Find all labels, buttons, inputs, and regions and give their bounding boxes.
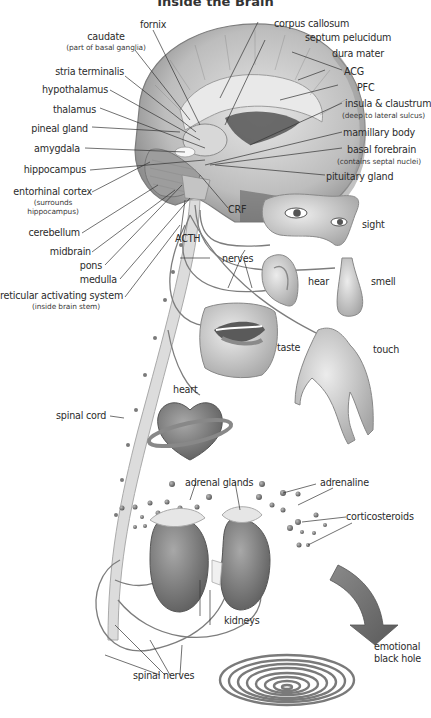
label-emotional-black-hole-line2: black hole	[374, 653, 421, 664]
label-pineal-gland: pineal gland	[0, 123, 88, 134]
label-basal-forebrain: basal forebrain	[347, 144, 416, 155]
label-hypothalamus: hypothalamus	[0, 84, 108, 95]
eyes-illustration	[262, 194, 358, 245]
label-entorhinal-note-1: (surrounds	[20, 198, 86, 207]
label-smell: smell	[371, 276, 396, 287]
label-stria-terminalis: stria terminalis	[0, 66, 124, 77]
label-septum-pelucidum: septum pelucidum	[305, 32, 391, 43]
label-midbrain: midbrain	[0, 246, 91, 257]
label-spinal-cord: spinal cord	[56, 410, 106, 421]
label-crf: CRF	[228, 204, 246, 215]
label-amygdala: amygdala	[0, 143, 80, 154]
label-hippocampus: hippocampus	[0, 164, 86, 175]
label-hear: hear	[308, 276, 329, 287]
label-reticular-activating-system: reticular activating system	[0, 290, 123, 301]
label-acg: ACG	[344, 66, 364, 77]
hand-illustration	[295, 328, 373, 444]
label-insula-note: (deep to lateral sulcus)	[342, 111, 425, 120]
label-sight: sight	[362, 219, 385, 230]
label-adrenaline: adrenaline	[320, 477, 369, 488]
label-caudate-note: (part of basal ganglia)	[58, 43, 154, 52]
label-pituitary-gland: pituitary gland	[326, 171, 393, 182]
label-corticosteroids: corticosteroids	[346, 511, 414, 522]
label-thalamus: thalamus	[0, 104, 96, 115]
label-heart: heart	[173, 384, 198, 395]
label-medulla: medulla	[0, 274, 117, 285]
label-touch: touch	[373, 344, 399, 355]
label-adrenal-glands: adrenal glands	[185, 477, 253, 488]
label-entorhinal-cortex: entorhinal cortex	[0, 186, 92, 197]
curved-arrow-illustration	[330, 565, 398, 645]
label-corpus-callosum: corpus callosum	[274, 18, 349, 29]
spiral-black-hole-illustration	[220, 655, 354, 705]
label-pons: pons	[0, 260, 102, 271]
label-entorhinal-note-2: hippocampus)	[20, 207, 86, 216]
diagram-title: Inside the Brain	[0, 0, 431, 9]
label-emotional-black-hole-line1: emotional	[374, 641, 420, 652]
label-kidneys: kidneys	[224, 615, 260, 626]
label-basal-forebrain-note: (contains septal nuclei)	[337, 157, 421, 166]
label-mamillary-body: mamillary body	[343, 127, 415, 138]
label-dura-mater: dura mater	[332, 48, 384, 59]
label-pfc: PFC	[357, 82, 374, 93]
mouth-illustration	[200, 303, 278, 378]
nose-illustration	[337, 258, 363, 316]
label-caudate: caudate	[60, 31, 152, 42]
label-fornix: fornix	[140, 19, 166, 30]
ear-illustration	[262, 255, 298, 306]
label-taste: taste	[277, 342, 300, 353]
heart-illustration	[147, 403, 233, 460]
label-spinal-nerves: spinal nerves	[133, 670, 194, 681]
label-nerves: nerves	[222, 253, 253, 264]
label-acth: ACTH	[175, 233, 200, 244]
label-cerebellum: cerebellum	[0, 227, 80, 238]
label-insula-claustrum: insula & claustrum	[345, 98, 431, 109]
label-ras-note: (inside brain stem)	[14, 302, 118, 311]
